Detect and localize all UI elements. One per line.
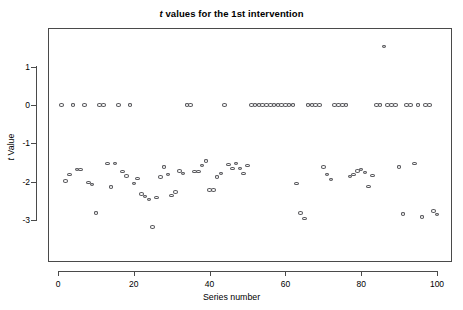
- chart-title-rest: values for the 1st intervention: [163, 8, 304, 19]
- y-axis-label-rest: Value: [6, 134, 16, 158]
- x-axis-line: [58, 271, 437, 272]
- x-tick-label: 0: [43, 279, 73, 289]
- chart-title: t values for the 1st intervention: [0, 8, 463, 19]
- y-axis-label-italic-t: t: [6, 158, 16, 160]
- x-tick-mark: [285, 271, 286, 276]
- y-tick-mark: [31, 182, 36, 183]
- y-axis-line: [36, 66, 37, 221]
- y-tick-mark: [31, 143, 36, 144]
- x-tick-label: 20: [119, 279, 149, 289]
- x-tick-label: 100: [422, 279, 452, 289]
- x-tick-mark: [210, 271, 211, 276]
- x-tick-label: 40: [195, 279, 225, 289]
- x-tick-mark: [437, 271, 438, 276]
- y-tick-label: -3: [12, 216, 30, 224]
- x-tick-label: 60: [270, 279, 300, 289]
- plot-panel: [48, 28, 452, 262]
- chart-figure: t values for the 1st intervention 10-1-2…: [0, 0, 463, 310]
- y-tick-mark: [31, 105, 36, 106]
- y-tick-label: 0: [12, 101, 30, 109]
- x-tick-mark: [134, 271, 135, 276]
- y-tick-mark: [31, 67, 36, 68]
- y-tick-label: 1: [12, 63, 30, 71]
- x-axis-label: Series number: [0, 292, 463, 302]
- x-tick-mark: [361, 271, 362, 276]
- x-tick-label: 80: [346, 279, 376, 289]
- y-tick-mark: [31, 220, 36, 221]
- x-tick-mark: [58, 271, 59, 276]
- y-axis-label: t Value: [6, 112, 16, 182]
